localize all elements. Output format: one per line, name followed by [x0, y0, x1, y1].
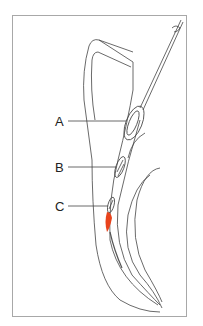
- label-a: A: [55, 114, 64, 129]
- label-c: C: [55, 199, 64, 214]
- anatomical-diagram: A B C: [0, 0, 203, 326]
- channel-right-wall: [117, 120, 160, 305]
- needle-shaft-1: [140, 20, 181, 108]
- balloon-a: [120, 103, 148, 142]
- label-b: B: [55, 160, 64, 175]
- highlight-region: [106, 212, 113, 232]
- dark-streak: [110, 232, 122, 268]
- needle-shaft-2: [143, 22, 183, 110]
- inner-upper-contour: [91, 52, 131, 120]
- outer-upper-top: [99, 40, 133, 90]
- inner-crescent-inner: [135, 168, 162, 302]
